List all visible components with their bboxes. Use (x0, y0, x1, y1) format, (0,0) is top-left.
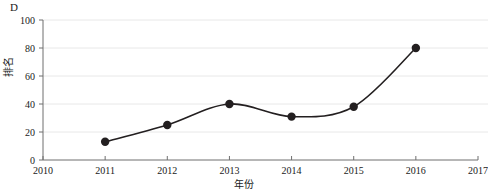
svg-text:80: 80 (25, 43, 35, 54)
x-axis (43, 156, 478, 160)
svg-text:40: 40 (25, 99, 35, 110)
svg-text:0: 0 (30, 155, 35, 166)
svg-text:2016: 2016 (406, 165, 426, 176)
y-tick-labels: 020406080100 (20, 15, 35, 166)
svg-text:2014: 2014 (282, 165, 302, 176)
y-axis (39, 20, 43, 160)
svg-text:2017: 2017 (468, 165, 488, 176)
svg-text:100: 100 (20, 15, 35, 26)
svg-text:60: 60 (25, 71, 35, 82)
chart-figure: D 排名 年份 020406080100 2010201120122013201… (0, 0, 488, 195)
svg-text:20: 20 (25, 127, 35, 138)
svg-text:2015: 2015 (344, 165, 364, 176)
svg-text:2013: 2013 (219, 165, 239, 176)
svg-text:2012: 2012 (157, 165, 177, 176)
data-line (105, 48, 416, 142)
svg-text:2010: 2010 (33, 165, 53, 176)
svg-text:2011: 2011 (95, 165, 115, 176)
x-tick-labels: 20102011201220132014201520162017 (33, 165, 488, 176)
line-chart-plot: 020406080100 201020112012201320142015201… (0, 0, 488, 195)
gridlines (43, 20, 488, 132)
